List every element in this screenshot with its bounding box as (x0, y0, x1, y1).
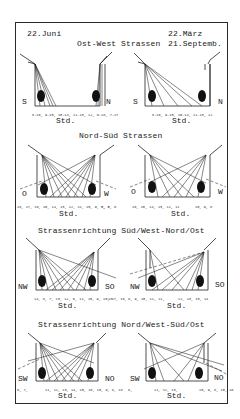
section-title-sw-no: Strassenrichtung Süd/West-Nord/Ost (38, 227, 205, 235)
unit-label-hours: Std. (58, 302, 77, 310)
direction-label-east: O (131, 188, 136, 196)
direction-label-northeast: NO (214, 374, 224, 382)
section-title-ost-west: Ost-West Strassen (77, 40, 160, 48)
section-title-nw-so: Strassenrichtung Nord/West-Süd/Ost (38, 321, 205, 329)
direction-label-south: S (22, 98, 27, 106)
sw-no-equinox-diagram (128, 238, 228, 294)
unit-label-hours: Std. (59, 210, 78, 218)
hour-labels: 8, 9, 10, 11, 11, (128, 295, 165, 303)
direction-label-northwest: NW (18, 283, 28, 291)
direction-label-north: N (218, 98, 223, 106)
date-equinox-september: 21.Septemb. (168, 40, 222, 48)
unit-label-hours: Std. (167, 392, 186, 400)
direction-label-south: S (133, 98, 138, 106)
ost-west-june-diagram (20, 50, 120, 110)
direction-label-northwest: NW (130, 283, 140, 291)
hour-labels: 6, 7, (17, 386, 28, 394)
hour-labels: 14, 8, 7, 13, 12, 6, 11, 10, 9, 15, 17, … (34, 295, 127, 303)
direction-label-southeast: SO (215, 281, 225, 289)
hour-labels-far: 7, 6 (101, 203, 110, 211)
direction-label-northeast: NO (105, 375, 115, 383)
date-summer-solstice: 22.Juni (27, 30, 61, 38)
ost-west-equinox-diagram (130, 50, 230, 110)
unit-label-hours: Std. (58, 392, 77, 400)
nw-so-june-diagram (18, 333, 118, 385)
nw-so-equinox-diagram (128, 333, 228, 385)
date-equinox-march: 22.März (168, 30, 202, 38)
hour-labels: 8, (128, 386, 132, 394)
unit-label-hours: Std. (167, 302, 186, 310)
unit-label-hours: Std. (172, 117, 191, 125)
hour-labels-far: 10, 9, 8, 15, 16 (199, 386, 234, 394)
unit-label-hours: Std. (56, 117, 75, 125)
direction-label-southeast: SO (105, 283, 115, 291)
hour-labels-far: 15, 9, 8 (195, 203, 212, 211)
hour-labels-far: 18 (108, 295, 112, 303)
section-title-nord-sued: Nord-Süd Strassen (79, 132, 162, 140)
hour-labels-mid: 11, 12, 13, 14, 15, 16, 10, 9, 8, 18 (45, 386, 123, 394)
unit-label-hours: Std. (171, 210, 190, 218)
nord-sued-june-diagram (18, 145, 118, 201)
direction-label-north: N (106, 98, 111, 106)
direction-label-west: W (218, 188, 223, 196)
direction-label-east: O (22, 190, 27, 198)
direction-label-southwest: SW (130, 375, 140, 383)
direction-label-west: W (104, 190, 109, 198)
nord-sued-equinox-diagram (128, 145, 228, 201)
direction-label-southwest: SW (18, 375, 28, 383)
